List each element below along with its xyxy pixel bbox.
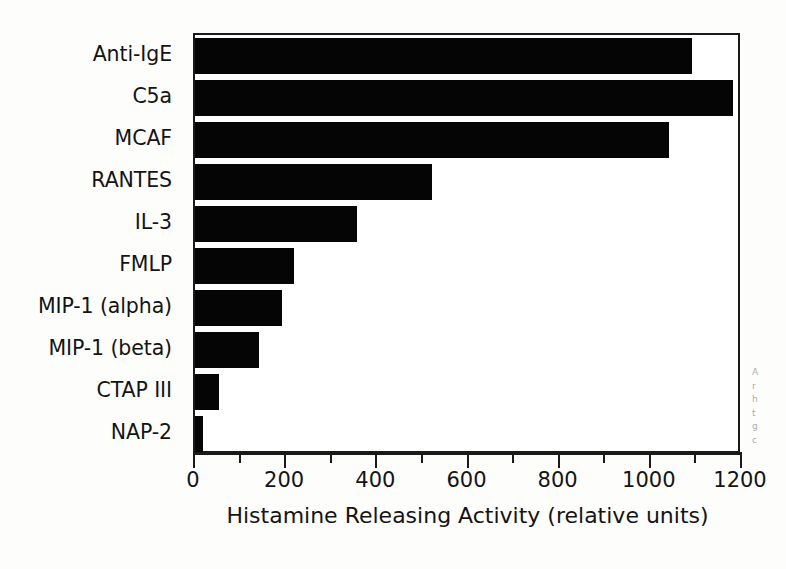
bar-band (195, 329, 738, 371)
x-tick-minor (239, 455, 241, 463)
margin-caption-line: t (752, 407, 786, 421)
x-tick-minor (421, 455, 423, 463)
category-label: Anti-IgE (93, 33, 172, 75)
category-label: RANTES (91, 159, 172, 201)
x-tick-label: 1000 (622, 468, 675, 492)
bar (195, 332, 259, 368)
bar (195, 290, 282, 326)
bar (195, 374, 219, 410)
x-tick-minor (694, 455, 696, 463)
category-label: IL-3 (135, 201, 172, 243)
bar (195, 206, 357, 242)
bar-band (195, 371, 738, 413)
bar (195, 80, 733, 116)
category-label: MIP-1 (alpha) (38, 285, 172, 327)
bar-band (195, 287, 738, 329)
category-label: C5a (132, 75, 172, 117)
margin-caption-line: r (752, 380, 786, 394)
bar-band (195, 35, 738, 77)
plot-area (193, 33, 740, 453)
margin-caption-line: c (752, 434, 786, 448)
x-tick-minor (603, 455, 605, 463)
x-tick-label: 200 (264, 468, 304, 492)
bar (195, 38, 692, 74)
margin-caption-line: g (752, 420, 786, 434)
bar-band (195, 161, 738, 203)
x-tick-label: 1200 (713, 468, 766, 492)
category-axis: Anti-IgEC5aMCAFRANTESIL-3FMLPMIP-1 (alph… (0, 33, 182, 453)
x-tick-label: 0 (186, 468, 199, 492)
margin-caption-fragment: Arhtgc (752, 366, 786, 447)
bar-chart-figure: Anti-IgEC5aMCAFRANTESIL-3FMLPMIP-1 (alph… (0, 0, 786, 569)
margin-caption-line: A (752, 366, 786, 380)
category-label: MCAF (115, 117, 172, 159)
bar (195, 416, 203, 452)
bar-band (195, 245, 738, 287)
bar-band (195, 119, 738, 161)
margin-caption-line: h (752, 393, 786, 407)
bar-band (195, 203, 738, 245)
x-tick-label: 400 (355, 468, 395, 492)
x-tick-major (649, 455, 651, 468)
x-tick-major (558, 455, 560, 468)
x-tick-label: 600 (446, 468, 486, 492)
bar (195, 122, 669, 158)
x-tick-minor (512, 455, 514, 463)
bar (195, 164, 432, 200)
category-label: NAP-2 (111, 411, 172, 453)
bar-band (195, 77, 738, 119)
x-tick-major (375, 455, 377, 468)
bar (195, 248, 294, 284)
x-tick-label: 800 (538, 468, 578, 492)
category-label: CTAP III (97, 369, 173, 411)
x-axis-title: Histamine Releasing Activity (relative u… (193, 503, 742, 528)
x-tick-major (193, 455, 195, 468)
x-tick-major (284, 455, 286, 468)
category-label: FMLP (119, 243, 172, 285)
bar-band (195, 413, 738, 455)
x-tick-major (740, 455, 742, 468)
category-label: MIP-1 (beta) (48, 327, 172, 369)
x-tick-minor (330, 455, 332, 463)
x-tick-major (467, 455, 469, 468)
